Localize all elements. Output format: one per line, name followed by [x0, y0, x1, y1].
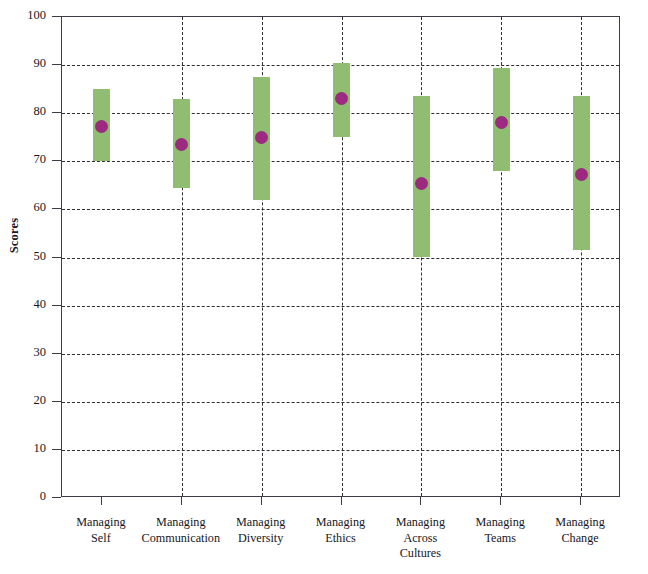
y-axis-tick-mark: [52, 497, 61, 498]
x-axis-tick-mark: [261, 497, 262, 505]
x-axis-category-label-line: Change: [520, 531, 640, 547]
range-plot-chart: Scores 0102030405060708090100 ManagingSe…: [0, 0, 648, 574]
x-axis-tick-mark: [580, 497, 581, 505]
y-axis-tick-label: 50: [0, 249, 46, 264]
y-axis-tick-mark: [52, 305, 61, 306]
y-axis-tick-label: 40: [0, 297, 46, 312]
gridline-horizontal: [62, 306, 619, 307]
y-axis-tick-label: 80: [0, 104, 46, 119]
y-axis-tick-label: 20: [0, 393, 46, 408]
x-axis-category-label-line: Cultures: [360, 546, 480, 562]
y-axis-tick-mark: [52, 401, 61, 402]
y-axis-tick-label: 70: [0, 152, 46, 167]
y-axis-tick-mark: [52, 353, 61, 354]
mean-point-marker: [575, 168, 588, 181]
y-axis-tick-label: 100: [0, 8, 46, 23]
y-axis-tick-mark: [52, 257, 61, 258]
y-axis-tick-mark: [52, 16, 61, 17]
gridline-horizontal: [62, 450, 619, 451]
y-axis-tick-mark: [52, 160, 61, 161]
x-axis-tick-mark: [181, 497, 182, 505]
gridline-horizontal: [62, 354, 619, 355]
x-axis-tick-mark: [101, 497, 102, 505]
x-axis-tick-mark: [341, 497, 342, 505]
y-axis-tick-mark: [52, 208, 61, 209]
y-axis-tick-label: 60: [0, 200, 46, 215]
mean-point-marker: [495, 116, 508, 129]
y-axis-tick-mark: [52, 449, 61, 450]
x-axis-tick-mark: [500, 497, 501, 505]
x-axis-category-label-line: Managing: [520, 515, 640, 531]
gridline-vertical-category: [182, 17, 183, 496]
gridline-vertical-category: [581, 17, 582, 496]
gridline-horizontal: [62, 161, 619, 162]
y-axis-tick-label: 30: [0, 345, 46, 360]
y-axis-tick-label: 0: [0, 489, 46, 504]
mean-point-marker: [255, 131, 268, 144]
plot-area: [61, 16, 620, 497]
gridline-horizontal: [62, 258, 619, 259]
y-axis-tick-label: 90: [0, 56, 46, 71]
gridline-horizontal: [62, 209, 619, 210]
gridline-horizontal: [62, 402, 619, 403]
y-axis-tick-label: 10: [0, 441, 46, 456]
y-axis-tick-mark: [52, 112, 61, 113]
x-axis-category-label: ManagingChange: [520, 515, 640, 546]
y-axis-tick-mark: [52, 64, 61, 65]
x-axis-tick-mark: [420, 497, 421, 505]
